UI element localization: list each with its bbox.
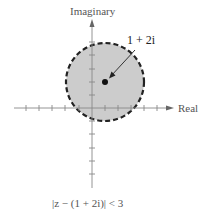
real-axis-label: Real bbox=[178, 102, 198, 114]
real-axis-arrow-icon bbox=[166, 106, 174, 111]
imaginary-axis-arrow-icon bbox=[90, 19, 95, 27]
imaginary-axis-label: Imaginary bbox=[70, 5, 116, 17]
center-label: 1 + 2i bbox=[127, 33, 156, 47]
complex-plane-diagram: Imaginary Real 1 + 2i |z − (1 + 2i)| < 3 bbox=[0, 0, 207, 216]
inequality-caption: |z − (1 + 2i)| < 3 bbox=[52, 197, 124, 210]
center-point bbox=[102, 79, 108, 85]
